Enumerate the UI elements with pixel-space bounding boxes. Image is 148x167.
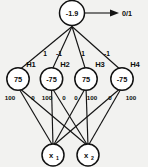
node-h4[interactable]: -75 [111, 68, 133, 90]
output-signal-label: 0/1 [122, 9, 132, 18]
weight-h2-x2: 0 [62, 94, 66, 101]
weight-h4-x2: 100 [126, 94, 137, 101]
h3-threshold: 75 [82, 75, 90, 84]
output-node-threshold: -1.9 [66, 9, 78, 18]
output-arrow-head [110, 10, 119, 17]
h1-threshold: 75 [14, 75, 22, 84]
node-h1[interactable]: 75 [7, 68, 29, 90]
weight-output-h4: -1 [104, 50, 110, 57]
output-arrow [85, 10, 119, 17]
weight-output-h1: 1 [43, 50, 47, 57]
output-weight-labels: 1 -1 1 -1 [43, 50, 110, 57]
node-x2[interactable]: x 2 [77, 144, 99, 166]
weight-output-h2: -1 [56, 50, 62, 57]
x1-subscript: 1 [56, 155, 59, 161]
h2-threshold: -75 [46, 75, 57, 84]
node-output[interactable]: -1.9 [60, 1, 85, 26]
edge-h3-x1 [53, 87, 86, 146]
neural-network-diagram: -1.9 75 -75 75 -75 x 1 x 2 [0, 0, 148, 167]
weight-h3-x1: 0 [74, 94, 78, 101]
label-h4: H4 [130, 60, 140, 69]
node-x1[interactable]: x 1 [42, 144, 64, 166]
weight-h4-x1: 0 [108, 94, 112, 101]
weight-output-h3: 1 [81, 50, 85, 57]
network-canvas: -1.9 75 -75 75 -75 x 1 x 2 [0, 0, 148, 167]
weight-h1-x1: 100 [5, 94, 16, 101]
weight-h1-x2: 0 [31, 94, 35, 101]
input-weight-labels: 100 0 100 0 0 100 0 100 [5, 94, 137, 101]
weight-h3-x2: 100 [87, 94, 98, 101]
label-h2: H2 [60, 60, 70, 69]
node-h3[interactable]: 75 [75, 68, 97, 90]
h4-threshold: -75 [117, 75, 128, 84]
label-h1: H1 [26, 60, 36, 69]
label-h3: H3 [95, 60, 105, 69]
node-h2[interactable]: -75 [40, 68, 62, 90]
weight-h2-x1: 100 [42, 94, 53, 101]
x2-subscript: 2 [91, 155, 94, 161]
